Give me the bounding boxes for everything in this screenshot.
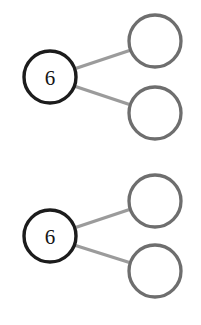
- diagram-top: 6: [24, 15, 181, 139]
- node-bottom-source-label: 6: [45, 225, 56, 249]
- edge-top-upper: [74, 50, 131, 69]
- edge-top-lower: [74, 86, 131, 105]
- edge-bottom-lower: [74, 245, 131, 263]
- node-bottom-target-upper[interactable]: [129, 175, 181, 227]
- diagram-canvas: 6 6: [0, 0, 201, 325]
- node-link-diagram-svg: 6 6: [0, 0, 201, 325]
- node-top-source-label: 6: [45, 66, 56, 90]
- node-top-target-upper[interactable]: [129, 15, 181, 67]
- edge-bottom-upper: [74, 209, 131, 228]
- node-bottom-target-lower[interactable]: [129, 245, 181, 297]
- diagram-bottom: 6: [24, 175, 181, 297]
- node-top-target-lower[interactable]: [129, 87, 181, 139]
